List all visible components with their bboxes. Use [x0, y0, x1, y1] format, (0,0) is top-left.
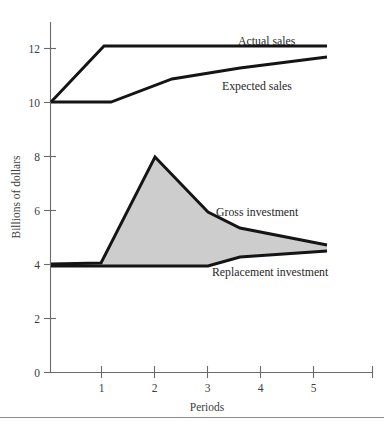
series-label-gross-investment: Gross investment [216, 205, 299, 219]
x-axis-title: Periods [190, 401, 225, 413]
series-label-actual-sales: Actual sales [238, 34, 296, 48]
y-tick-label-4: 4 [34, 259, 40, 271]
y-axis-title: Billions of dollars [10, 155, 22, 239]
y-tick-label-0: 0 [34, 367, 40, 379]
y-tick-label-12: 12 [29, 43, 41, 55]
y-tick-label-6: 6 [34, 205, 40, 217]
y-tick-label-10: 10 [29, 97, 41, 109]
x-tick-label-4: 4 [258, 382, 264, 394]
y-tick-label-8: 8 [34, 151, 40, 163]
x-tick-label-2: 2 [152, 382, 158, 394]
series-line-actual-sales [51, 46, 327, 102]
y-tick-label-2: 2 [34, 313, 40, 325]
x-tick-label-1: 1 [99, 382, 105, 394]
series-label-expected-sales: Expected sales [222, 79, 292, 93]
series-label-replacement-investment: Replacement investment [212, 265, 329, 279]
x-tick-label-5: 5 [311, 382, 317, 394]
investment-line-chart: 0 2 4 6 8 10 12 1 2 3 4 5 Periods Billio… [0, 0, 384, 423]
figure-bottom-rule [0, 417, 384, 418]
x-tick-label-3: 3 [205, 382, 211, 394]
chart-figure: 0 2 4 6 8 10 12 1 2 3 4 5 Periods Billio… [0, 0, 384, 423]
